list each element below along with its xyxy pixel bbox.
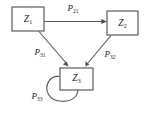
diagram-canvas: P21 P31 P32 P33	[0, 0, 150, 113]
edge-label-p21-sub: 21	[73, 8, 79, 14]
edge-z1-to-z3: P31	[34, 32, 69, 67]
node-z3[interactable]: Z3	[60, 68, 93, 90]
edge-z1-to-z2-arrowhead	[101, 19, 107, 24]
edge-z1-to-z3-arrowhead	[63, 62, 69, 67]
state-transition-diagram: P21 P31 P32 P33	[0, 0, 150, 113]
edge-z2-to-z3: P32	[85, 36, 115, 67]
node-z1[interactable]: Z1	[12, 7, 44, 31]
edge-label-p32-sub: 32	[110, 54, 116, 60]
node-z2-label-sub: 2	[124, 23, 127, 29]
edge-z1-to-z2: P21	[45, 3, 107, 24]
node-z1-label-sub: 1	[29, 19, 32, 25]
edge-label-p32: P32	[104, 49, 116, 60]
edge-z1-to-z3-line	[39, 32, 67, 64]
node-z3-label-sub: 3	[78, 78, 81, 84]
edge-label-p31-sub: 31	[40, 52, 46, 58]
edge-label-p33: P33	[31, 91, 43, 102]
edge-label-p31: P31	[34, 47, 46, 58]
edge-label-p21: P21	[67, 3, 79, 14]
node-z2[interactable]: Z2	[107, 11, 138, 35]
edge-label-p33-sub: 33	[37, 96, 43, 102]
